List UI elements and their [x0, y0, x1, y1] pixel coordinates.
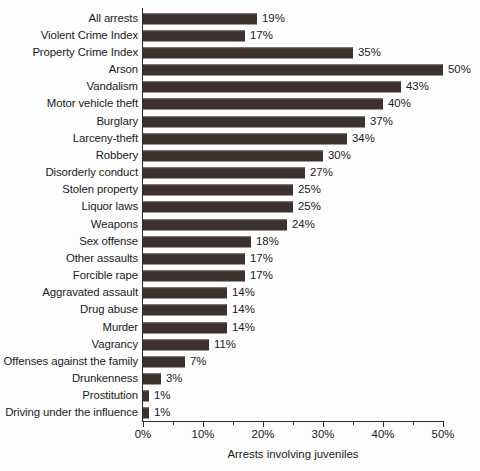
- bar-value-label: 19%: [262, 13, 285, 24]
- bar: [143, 150, 323, 161]
- bar-value-label: 27%: [310, 167, 333, 178]
- x-tick-major: [143, 421, 144, 427]
- bar: [143, 288, 227, 299]
- bar-value-label: 30%: [328, 150, 351, 161]
- bar: [143, 185, 293, 196]
- bar-value-label: 1%: [154, 408, 170, 419]
- category-label: Vagrancy: [92, 339, 138, 350]
- bar-value-label: 17%: [250, 253, 273, 264]
- category-label: Drug abuse: [80, 305, 138, 316]
- chart-row: All arrests19%: [143, 10, 443, 27]
- x-tick-major: [263, 421, 264, 427]
- category-label: Weapons: [91, 219, 138, 230]
- bar: [143, 305, 227, 316]
- chart-row: Vandalism43%: [143, 79, 443, 96]
- chart-row: Driving under the influence1%: [143, 405, 443, 422]
- bar: [143, 82, 401, 93]
- chart-row: Stolen property25%: [143, 182, 443, 199]
- category-label: Prostitution: [82, 391, 138, 402]
- category-label: Stolen property: [62, 185, 138, 196]
- chart-row: Arson50%: [143, 62, 443, 79]
- x-tick-minor: [293, 421, 294, 425]
- category-label: Forcible rape: [73, 270, 138, 281]
- category-label: All arrests: [88, 13, 138, 24]
- category-label: Offenses against the family: [4, 356, 138, 367]
- x-tick-label: 40%: [372, 429, 395, 440]
- bar: [143, 47, 353, 58]
- chart-row: Offenses against the family7%: [143, 353, 443, 370]
- bar: [143, 339, 209, 350]
- category-label: Property Crime Index: [32, 47, 138, 58]
- chart-row: Property Crime Index35%: [143, 44, 443, 61]
- bar: [143, 202, 293, 213]
- chart-row: Liquor laws25%: [143, 199, 443, 216]
- category-label: Robbery: [96, 150, 138, 161]
- x-axis-title: Arrests involving juveniles: [227, 449, 358, 460]
- category-label: Larceny-theft: [73, 133, 138, 144]
- bar-value-label: 14%: [232, 305, 255, 316]
- category-label: Arson: [109, 64, 138, 75]
- x-tick-major: [323, 421, 324, 427]
- bar: [143, 30, 245, 41]
- bar-value-label: 40%: [388, 99, 411, 110]
- bar: [143, 99, 383, 110]
- category-label: Motor vehicle theft: [47, 99, 138, 110]
- bar: [143, 236, 251, 247]
- chart-row: Murder14%: [143, 319, 443, 336]
- bar: [143, 116, 365, 127]
- bar-value-label: 7%: [190, 356, 206, 367]
- bar: [143, 356, 185, 367]
- x-tick-minor: [413, 421, 414, 425]
- bar-value-label: 17%: [250, 30, 273, 41]
- bar: [143, 219, 287, 230]
- bar-value-label: 37%: [370, 116, 393, 127]
- x-tick-major: [383, 421, 384, 427]
- category-label: Liquor laws: [81, 202, 138, 213]
- chart-row: Prostitution1%: [143, 388, 443, 405]
- category-label: Driving under the influence: [5, 408, 138, 419]
- bar: [143, 253, 245, 264]
- chart-row: Weapons24%: [143, 216, 443, 233]
- bar-value-label: 25%: [298, 185, 321, 196]
- x-tick-major: [203, 421, 204, 427]
- category-label: Aggravated assault: [42, 288, 138, 299]
- chart-row: Aggravated assault14%: [143, 285, 443, 302]
- plot-area: All arrests19%Violent Crime Index17%Prop…: [143, 8, 443, 420]
- bar-value-label: 14%: [232, 322, 255, 333]
- bar-value-label: 25%: [298, 202, 321, 213]
- chart-row: Disorderly conduct27%: [143, 165, 443, 182]
- bar: [143, 391, 149, 402]
- x-tick-major: [443, 421, 444, 427]
- x-tick-minor: [353, 421, 354, 425]
- bar-value-label: 14%: [232, 288, 255, 299]
- x-tick-minor: [233, 421, 234, 425]
- bar-value-label: 35%: [358, 47, 381, 58]
- chart-row: Vagrancy11%: [143, 336, 443, 353]
- bar: [143, 13, 257, 24]
- chart-row: Drunkenness3%: [143, 371, 443, 388]
- bar-value-label: 11%: [214, 339, 236, 350]
- chart-row: Burglary37%: [143, 113, 443, 130]
- bar-value-label: 18%: [256, 236, 279, 247]
- bar-value-label: 34%: [352, 133, 375, 144]
- x-tick-label: 50%: [432, 429, 455, 440]
- category-label: Disorderly conduct: [45, 167, 138, 178]
- bar-value-label: 1%: [154, 391, 170, 402]
- x-tick-label: 20%: [252, 429, 275, 440]
- bar-value-label: 43%: [406, 82, 429, 93]
- bar-value-label: 50%: [448, 64, 471, 75]
- category-label: Murder: [103, 322, 138, 333]
- bar-value-label: 17%: [250, 270, 273, 281]
- bar: [143, 408, 149, 419]
- bar: [143, 271, 245, 282]
- chart-row: Motor vehicle theft40%: [143, 96, 443, 113]
- x-tick-minor: [173, 421, 174, 425]
- chart-row: Robbery30%: [143, 147, 443, 164]
- chart-row: Larceny-theft34%: [143, 130, 443, 147]
- x-tick-label: 0%: [135, 429, 151, 440]
- bar: [143, 65, 443, 76]
- chart-row: Drug abuse14%: [143, 302, 443, 319]
- x-tick-label: 10%: [192, 429, 215, 440]
- bar-value-label: 24%: [292, 219, 315, 230]
- category-label: Drunkenness: [72, 373, 138, 384]
